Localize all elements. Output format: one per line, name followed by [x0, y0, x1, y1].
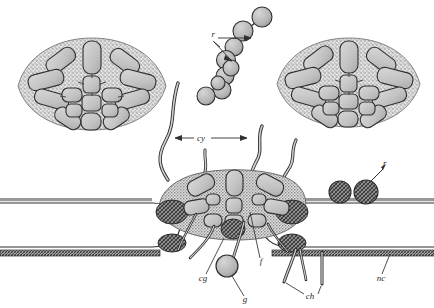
- rootlet-granules-right: [329, 164, 386, 204]
- central-sensory-body: [156, 170, 308, 277]
- label-cy-leader: [175, 136, 247, 141]
- label-nc: nc: [377, 273, 386, 283]
- rootlet-granule-2: [354, 180, 378, 204]
- left-rosette: [18, 38, 166, 132]
- label-r-right-leader: [371, 169, 383, 181]
- right-rosette: [277, 38, 420, 130]
- label-r-top: r: [211, 29, 215, 39]
- left-attachment-block: [156, 200, 188, 224]
- rootlet-sphere-chain: [197, 7, 272, 105]
- label-f: f: [260, 256, 264, 266]
- label-r-right: r: [383, 158, 387, 168]
- label-ch: ch: [306, 291, 315, 301]
- figure-container: r cy: [0, 0, 434, 308]
- anatomical-diagram: r cy: [0, 0, 434, 308]
- rootlet-granule-1: [329, 181, 351, 203]
- label-g: g: [243, 294, 248, 304]
- gland-cell: [216, 255, 238, 277]
- label-cy: cy: [197, 133, 205, 143]
- left-nerve-cord-tube: [0, 199, 180, 256]
- label-cg: cg: [199, 273, 208, 283]
- left-cord-sheath: [0, 250, 160, 256]
- right-attachment-block-lower: [278, 234, 306, 252]
